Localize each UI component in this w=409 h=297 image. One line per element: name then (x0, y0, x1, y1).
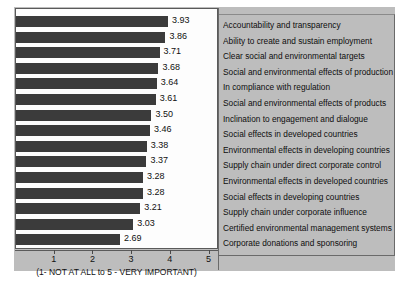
bar (16, 234, 120, 245)
x-axis: 12345 (1- NOT AT ALL to 5 - VERY IMPORTA… (15, 250, 218, 270)
legend-item: Social effects in developing countries (223, 190, 394, 206)
bar (16, 172, 143, 183)
bar-row: 3.28 (16, 187, 217, 203)
bar-row: 3.68 (16, 62, 217, 78)
x-axis-line (15, 250, 218, 251)
legend-item: Environmental effects in developed count… (223, 174, 394, 190)
x-axis-tick-label: 5 (206, 254, 211, 265)
plot-area: 3.933.863.713.683.643.613.503.463.383.37… (15, 8, 218, 249)
bar-value-label: 3.28 (147, 170, 165, 183)
bar (16, 156, 146, 167)
bar-row: 3.37 (16, 155, 217, 171)
chart-canvas: 3.933.863.713.683.643.613.503.463.383.37… (14, 7, 395, 271)
bar-value-label: 3.71 (164, 45, 182, 58)
legend-item: Supply chain under corporate influence (223, 205, 394, 221)
bar (16, 94, 156, 105)
bar-value-label: 3.93 (172, 14, 190, 27)
legend-item: In compliance with regulation (223, 80, 394, 96)
bar-value-label: 3.86 (169, 30, 187, 43)
bar-value-label: 3.03 (137, 217, 155, 230)
bar-value-label: 3.61 (160, 92, 178, 105)
x-axis-tick-label: 4 (167, 254, 172, 265)
bar-value-label: 3.21 (144, 201, 162, 214)
bar-value-label: 3.64 (161, 76, 179, 89)
bar (16, 47, 160, 58)
bar (16, 125, 150, 136)
x-axis-tick-label: 1 (51, 254, 56, 265)
legend-item: Environmental effects in developing coun… (223, 143, 394, 159)
legend-item: Social and environmental effects of prod… (223, 96, 394, 112)
bar-row: 3.86 (16, 31, 217, 47)
bar-row: 3.50 (16, 109, 217, 125)
bar (16, 32, 165, 43)
bar-value-label: 3.50 (155, 108, 173, 121)
legend-item: Inclination to engagement and dialogue (223, 112, 394, 128)
bar (16, 141, 147, 152)
legend-list: Accountability and transparencyAbility t… (219, 14, 395, 256)
bar-value-label: 3.68 (162, 61, 180, 74)
legend-item: Accountability and transparency (223, 18, 394, 34)
legend-item: Ability to create and sustain employment (223, 34, 394, 50)
bar (16, 203, 140, 214)
bar-series: 3.933.863.713.683.643.613.503.463.383.37… (16, 15, 217, 249)
bar-row: 3.64 (16, 77, 217, 93)
bar (16, 110, 151, 121)
bar-row: 3.21 (16, 202, 217, 218)
bar-row: 3.46 (16, 124, 217, 140)
legend-item: Supply chain under direct corporate cont… (223, 158, 394, 174)
x-axis-caption: (1- NOT AT ALL to 5 - VERY IMPORTANT) (15, 267, 218, 277)
x-axis-tick-label: 3 (129, 254, 134, 265)
bar-value-label: 3.37 (150, 154, 168, 167)
legend-item: Social and environmental effects of prod… (223, 65, 394, 81)
bar-row: 2.69 (16, 233, 217, 249)
bar (16, 16, 168, 27)
bar (16, 78, 157, 89)
bar-value-label: 3.38 (151, 139, 169, 152)
x-axis-tick-label: 2 (90, 254, 95, 265)
legend-item: Clear social and environmental targets (223, 49, 394, 65)
bar-row: 3.71 (16, 46, 217, 62)
legend-item: Certified environmental management syste… (223, 221, 394, 237)
bar-row: 3.61 (16, 93, 217, 109)
bar (16, 63, 158, 74)
bar-row: 3.28 (16, 171, 217, 187)
bar-value-label: 3.28 (147, 186, 165, 199)
bar (16, 219, 133, 230)
legend-item: Corporate donations and sponsoring (223, 236, 394, 252)
legend-panel: Accountability and transparencyAbility t… (218, 8, 394, 270)
chart-screenshot: 3.933.863.713.683.643.613.503.463.383.37… (0, 0, 409, 297)
bar-row: 3.03 (16, 218, 217, 234)
bar (16, 188, 143, 199)
bar-row: 3.93 (16, 15, 217, 31)
bar-value-label: 2.69 (124, 232, 142, 245)
bar-row: 3.38 (16, 140, 217, 156)
bar-value-label: 3.46 (154, 123, 172, 136)
legend-item: Social effects in developed countries (223, 127, 394, 143)
